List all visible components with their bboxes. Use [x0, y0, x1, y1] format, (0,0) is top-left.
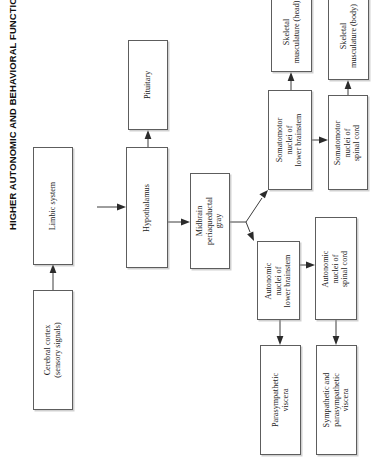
- arrow-hypothalamus-to-pituitary: [145, 130, 152, 147]
- node-cerebral-cortex[interactable]: Cerebral cortex (sensory signals): [33, 290, 73, 410]
- arrow-autonomic-brainstem-to-spinal: [300, 262, 315, 269]
- arrow-midbrain-branch: [230, 190, 268, 241]
- node-autonomic-nuclei-lower-brainstem-label: Autonomic nuclei of lower brainstem: [264, 254, 293, 307]
- node-parasympathetic-viscera[interactable]: Parasympathetic viscera: [260, 345, 301, 455]
- arrow-autonomic-brainstem-to-parasympathetic: [277, 320, 284, 345]
- node-somatomotor-nuclei-spinal-cord-label: Somatomotor nuclei of spinal cord: [333, 120, 362, 165]
- node-sympathetic-parasympathetic-viscera-label: Sympathetic and parasympathetic viscera: [322, 373, 351, 428]
- arrow-somatomotor-brainstem-to-head-muscle: [288, 72, 295, 90]
- arrow-autonomic-spinal-to-sympathetic: [333, 320, 340, 345]
- node-somatomotor-nuclei-lower-brainstem[interactable]: Somatomotor nuclei of lower brainstem: [268, 90, 312, 190]
- node-hypothalamus-label: Hypothalamus: [142, 184, 152, 232]
- node-cerebral-cortex-label: Cerebral cortex (sensory signals): [43, 322, 62, 377]
- arrow-cortex-to-limbic: [50, 264, 57, 290]
- arrow-somatomotor-spinal-to-body-muscle: [345, 80, 352, 95]
- node-midbrain-periaqueductal-gray[interactable]: Midbrain periaqueductal gray: [190, 173, 230, 269]
- node-autonomic-nuclei-lower-brainstem[interactable]: Autonomic nuclei of lower brainstem: [257, 241, 300, 320]
- arrow-somatomotor-brainstem-to-spinal: [312, 137, 328, 144]
- node-midbrain-periaqueductal-gray-label: Midbrain periaqueductal gray: [195, 197, 224, 245]
- node-parasympathetic-viscera-label: Parasympathetic viscera: [271, 373, 290, 427]
- node-somatomotor-nuclei-spinal-cord[interactable]: Somatomotor nuclei of spinal cord: [328, 95, 368, 190]
- node-hypothalamus[interactable]: Hypothalamus: [126, 147, 168, 268]
- node-pituitary[interactable]: Pituitary: [128, 40, 168, 130]
- node-skeletal-musculature-head[interactable]: Skeletal musculature (head): [271, 0, 312, 72]
- node-skeletal-musculature-body-label: Skeletal musculature (body): [339, 4, 358, 68]
- node-skeletal-musculature-body[interactable]: Skeletal musculature (body): [328, 0, 369, 80]
- node-autonomic-nuclei-spinal-cord-label: Autonomic nuclei of spinal cord: [321, 250, 350, 287]
- page-title: HIGHER AUTONOMIC AND BEHAVIORAL FUNCTION…: [0, 0, 24, 230]
- node-limbic-system[interactable]: Limbic system: [33, 147, 73, 265]
- node-limbic-system-label: Limbic system: [48, 182, 58, 230]
- diagram-page: HIGHER AUTONOMIC AND BEHAVIORAL FUNCTION…: [0, 0, 385, 457]
- node-skeletal-musculature-head-label: Skeletal musculature (head): [282, 1, 301, 64]
- node-somatomotor-nuclei-lower-brainstem-label: Somatomotor nuclei of lower brainstem: [275, 114, 304, 167]
- node-pituitary-label: Pituitary: [143, 71, 153, 99]
- node-autonomic-nuclei-spinal-cord[interactable]: Autonomic nuclei of spinal cord: [315, 217, 357, 320]
- node-sympathetic-parasympathetic-viscera[interactable]: Sympathetic and parasympathetic viscera: [316, 345, 357, 455]
- arrow-limbic-to-hypothalamus: [97, 204, 126, 211]
